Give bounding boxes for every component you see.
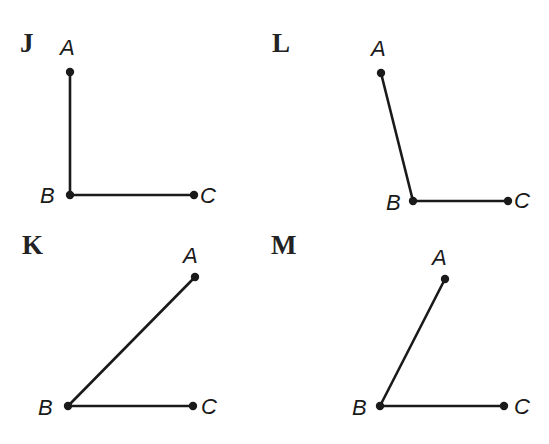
- panel-label-k: K: [22, 232, 43, 259]
- point-b-dot: [409, 197, 417, 205]
- point-a-dot: [191, 273, 199, 281]
- point-b-dot: [66, 191, 74, 199]
- panel-label-m: M: [271, 232, 296, 259]
- ray-ba-line: [68, 277, 195, 406]
- panel-label-j: J: [20, 30, 34, 57]
- point-label-c: C: [514, 190, 530, 212]
- point-label-b: B: [40, 185, 55, 207]
- point-c-dot: [189, 402, 197, 410]
- point-b-dot: [64, 402, 72, 410]
- panel-label-l: L: [272, 30, 290, 57]
- angle-panel-l: [377, 69, 512, 205]
- point-c-dot: [500, 402, 508, 410]
- point-label-c: C: [201, 396, 217, 418]
- angle-diagram-figure: ABCJABCLABCKABCM: [0, 0, 549, 444]
- angle-panel-m: [376, 275, 508, 410]
- point-label-b: B: [38, 397, 53, 419]
- point-label-a: A: [183, 245, 198, 267]
- point-label-a: A: [60, 37, 75, 59]
- point-a-dot: [441, 275, 449, 283]
- angle-panel-j: [66, 68, 198, 199]
- point-label-a: A: [432, 247, 447, 269]
- point-a-dot: [66, 68, 74, 76]
- angle-lines-canvas: [0, 0, 549, 444]
- point-a-dot: [377, 69, 385, 77]
- ray-ba-line: [380, 279, 445, 406]
- point-label-c: C: [514, 396, 530, 418]
- point-label-b: B: [386, 192, 401, 214]
- point-c-dot: [504, 197, 512, 205]
- point-b-dot: [376, 402, 384, 410]
- point-label-a: A: [371, 38, 386, 60]
- angle-panel-k: [64, 273, 199, 410]
- point-label-b: B: [352, 397, 367, 419]
- point-label-c: C: [200, 185, 216, 207]
- ray-ba-line: [381, 73, 413, 201]
- point-c-dot: [190, 191, 198, 199]
